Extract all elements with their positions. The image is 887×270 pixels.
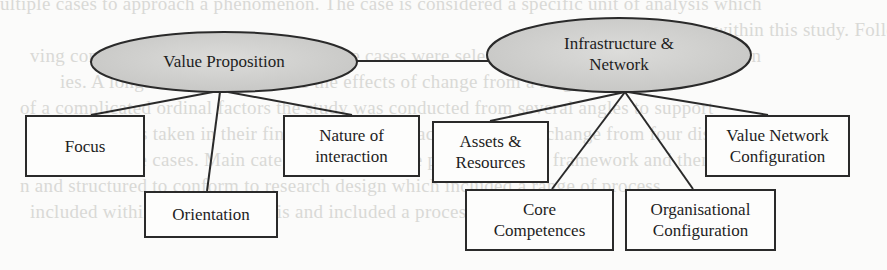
value-proposition-text: Value Proposition [163, 51, 284, 72]
edge-vp-focus [91, 92, 213, 115]
nature-of-interaction-label: Nature of interaction [299, 125, 404, 167]
value-network-configuration-box: Value Network Configuration [705, 115, 850, 177]
edge-infra-assets [490, 92, 625, 121]
assets-resources-box: Assets & Resources [432, 121, 549, 183]
focus-box: Focus [25, 115, 145, 177]
organisational-configuration-box: Organisational Configuration [625, 189, 776, 251]
edge-vp-orientation [207, 92, 220, 191]
infrastructure-network-text-line2: Network [589, 54, 648, 75]
edge-infra-vnc [628, 92, 768, 115]
edge-vp-nature [228, 92, 352, 115]
edge-infra-org [625, 92, 693, 189]
focus-label: Focus [65, 136, 106, 157]
assets-resources-label-line1: Assets & [460, 131, 522, 152]
value-network-configuration-label-line1: Value Network [726, 125, 828, 146]
core-competences-label-line2: Competences [494, 220, 586, 241]
nature-of-interaction-box: Nature of interaction [283, 115, 420, 177]
infrastructure-network-text-line1: Infrastructure & [564, 33, 674, 54]
core-competences-label-line1: Core [523, 199, 556, 220]
organisational-configuration-label-line1: Organisational [651, 199, 751, 220]
edge-infra-core [552, 92, 625, 189]
orientation-label: Orientation [172, 204, 249, 225]
core-competences-box: Core Competences [465, 189, 614, 251]
orientation-box: Orientation [144, 191, 278, 238]
value-network-configuration-label-line2: Configuration [730, 146, 825, 167]
value-proposition-label: Value Proposition [91, 32, 357, 90]
assets-resources-label-line2: Resources [456, 152, 526, 173]
infrastructure-network-label: Infrastructure & Network [487, 18, 751, 90]
organisational-configuration-label-line2: Configuration [653, 220, 748, 241]
